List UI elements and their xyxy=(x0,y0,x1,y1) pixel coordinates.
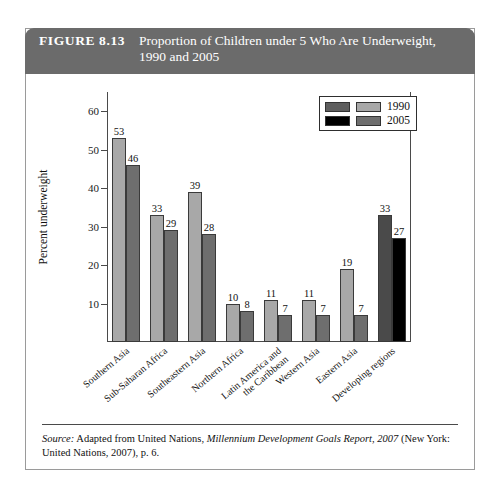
bar-value-label: 19 xyxy=(342,257,353,268)
figure-number: FIGURE 8.13 xyxy=(39,33,125,49)
source-divider xyxy=(42,424,458,425)
bar-value-label: 33 xyxy=(152,203,163,214)
bar-value-label: 39 xyxy=(190,180,201,191)
bar-value-label: 53 xyxy=(114,126,125,137)
bar-1990 xyxy=(188,192,202,342)
bar-value-label: 7 xyxy=(358,303,363,314)
bar-1990 xyxy=(112,138,126,342)
bar-group: 3928 xyxy=(183,92,221,342)
y-tick-label: 10 xyxy=(69,298,99,310)
y-tick-label: 40 xyxy=(69,182,99,194)
chart-area: Percent underweight 102030405060 5346332… xyxy=(25,74,475,414)
source-text-before: Adapted from United Nations, xyxy=(74,433,206,444)
source-label: Source: xyxy=(42,433,74,444)
bar-2005 xyxy=(354,315,368,342)
source-italic-title: Millennium Development Goals Report, 200… xyxy=(207,433,399,444)
legend-label-2005: 2005 xyxy=(387,115,410,126)
bar-1990 xyxy=(340,269,354,342)
y-tick-label: 60 xyxy=(69,105,99,117)
bar-value-label: 11 xyxy=(266,288,276,299)
bar-1990 xyxy=(302,300,316,342)
figure-title: Proportion of Children under 5 Who Are U… xyxy=(139,33,459,65)
bar-2005 xyxy=(240,311,254,342)
bar-value-label: 11 xyxy=(304,288,314,299)
bar-value-label: 7 xyxy=(282,303,287,314)
legend-swatch-2005-b xyxy=(356,116,381,126)
y-tick-label: 50 xyxy=(69,144,99,156)
y-tick-label: 30 xyxy=(69,221,99,233)
bar-2005 xyxy=(202,234,216,342)
bar-1990 xyxy=(264,300,278,342)
bar-value-label: 7 xyxy=(320,303,325,314)
bar-value-label: 28 xyxy=(204,222,215,233)
bar-1990 xyxy=(378,215,392,342)
bar-group: 117 xyxy=(259,92,297,342)
bar-value-label: 29 xyxy=(166,218,177,229)
figure-page: FIGURE 8.13 Proportion of Children under… xyxy=(0,0,498,497)
bar-1990 xyxy=(226,304,240,342)
bar-value-label: 46 xyxy=(128,153,139,164)
figure-header: FIGURE 8.13 Proportion of Children under… xyxy=(25,28,475,74)
y-axis-title: Percent underweight xyxy=(37,170,49,265)
bar-2005 xyxy=(278,315,292,342)
source-note: Source: Adapted from United Nations, Mil… xyxy=(42,432,458,459)
y-tick-label: 20 xyxy=(69,259,99,271)
bar-value-label: 27 xyxy=(394,226,405,237)
bar-2005 xyxy=(164,230,178,342)
bar-value-label: 8 xyxy=(244,299,249,310)
bar-2005 xyxy=(316,315,330,342)
legend-swatch-1990-b xyxy=(356,102,381,112)
bar-value-label: 33 xyxy=(380,203,391,214)
legend-label-1990: 1990 xyxy=(387,101,410,112)
bar-group: 3329 xyxy=(145,92,183,342)
bar-2005 xyxy=(392,238,406,342)
legend-swatch-2005-a xyxy=(325,116,350,126)
bar-group: 108 xyxy=(221,92,259,342)
bar-2005 xyxy=(126,165,140,342)
bar-group: 5346 xyxy=(107,92,145,342)
bar-value-label: 10 xyxy=(228,292,239,303)
bar-1990 xyxy=(150,215,164,342)
legend-swatch-1990-a xyxy=(325,102,350,112)
chart-legend: 1990 2005 xyxy=(319,96,417,131)
x-axis-labels: Southern AsiaSub-Saharan AfricaSoutheast… xyxy=(107,345,411,415)
